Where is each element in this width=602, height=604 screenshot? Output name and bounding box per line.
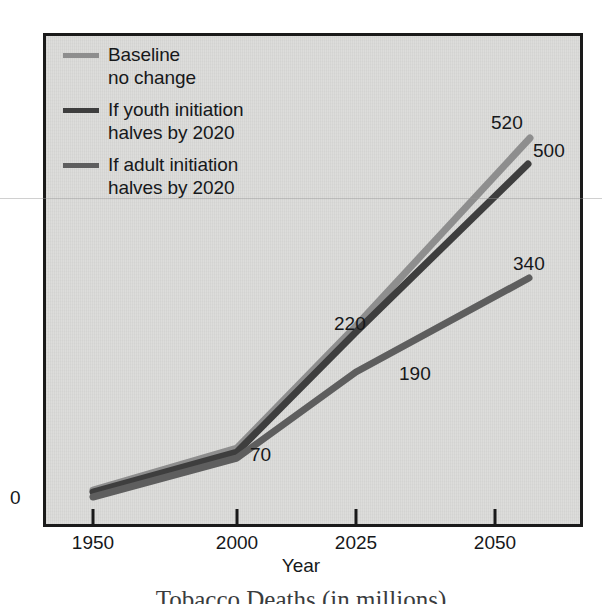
value-label-baseline-2050: 520 (491, 112, 523, 134)
legend-swatch-adult (63, 163, 99, 168)
x-axis-tick-2050: 2050 (474, 532, 516, 554)
legend-item-adult[interactable]: If adult initiation halves by 2020 (63, 153, 313, 199)
legend-swatch-youth (63, 108, 99, 113)
chart-legend: Baseline no change If youth initiation h… (63, 43, 313, 208)
legend-label-baseline: Baseline no change (108, 43, 196, 89)
figure-caption: Tobacco Deaths (in millions) (0, 588, 602, 604)
legend-item-baseline[interactable]: Baseline no change (63, 43, 313, 89)
legend-label-youth: If youth initiation halves by 2020 (108, 98, 243, 144)
x-axis-tick-2025: 2025 (335, 532, 377, 554)
y-axis-tick-0: 0 (10, 487, 21, 509)
value-label-baseline-2025: 220 (334, 313, 366, 335)
legend-swatch-baseline (63, 53, 99, 58)
value-label-adult-2050: 340 (513, 253, 545, 275)
x-axis-title: Year (0, 555, 602, 577)
figure-canvas: Baseline no change If youth initiation h… (0, 0, 602, 604)
legend-item-youth[interactable]: If youth initiation halves by 2020 (63, 98, 313, 144)
value-label-adult-2025: 190 (399, 363, 431, 385)
x-axis-tick-2000: 2000 (216, 532, 258, 554)
value-label-youth-2050: 500 (533, 140, 565, 162)
x-axis-tick-1950: 1950 (72, 532, 114, 554)
figure-caption-text: Tobacco Deaths (in millions) (0, 588, 602, 604)
value-label-all-2000: 70 (250, 444, 271, 466)
legend-label-adult: If adult initiation halves by 2020 (108, 153, 238, 199)
